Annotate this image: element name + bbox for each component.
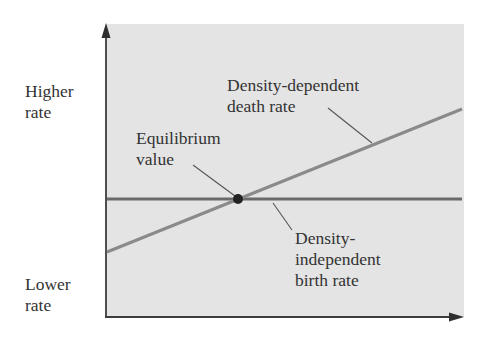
y-axis-lower-label: Lower rate <box>25 274 71 316</box>
birth-rate-line1: Density- <box>295 228 381 249</box>
equilibrium-line1: Equilibrium <box>136 128 221 149</box>
rate-text: rate <box>25 102 74 123</box>
plot-area <box>0 0 488 350</box>
lower-text: Lower <box>25 274 71 295</box>
equilibrium-label: Equilibrium value <box>136 128 221 170</box>
plot-background <box>106 24 464 317</box>
diagram: Higher rate Lower rate Density-dependent… <box>0 0 488 350</box>
equilibrium-point-icon <box>233 194 243 204</box>
birth-rate-line2: independent <box>295 249 381 270</box>
death-rate-line2: death rate <box>227 96 359 117</box>
y-axis-higher-label: Higher rate <box>25 81 74 123</box>
equilibrium-line2: value <box>136 149 221 170</box>
death-rate-label: Density-dependent death rate <box>227 75 359 117</box>
death-rate-line1: Density-dependent <box>227 75 359 96</box>
rate-text: rate <box>25 295 71 316</box>
birth-rate-line3: birth rate <box>295 270 381 291</box>
birth-rate-label: Density- independent birth rate <box>295 228 381 291</box>
higher-text: Higher <box>25 81 74 102</box>
